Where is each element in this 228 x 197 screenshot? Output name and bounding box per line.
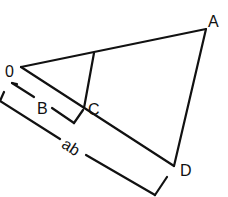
bracket-B-line-1 <box>12 83 34 97</box>
bracket-ab-line-2 <box>86 155 155 195</box>
line-OA <box>21 29 206 67</box>
bracket-ab-end-tick <box>155 177 167 195</box>
bracket-ab-start-tick <box>0 92 4 101</box>
bracket-B-line-2 <box>52 108 74 123</box>
label-D: D <box>180 162 192 179</box>
line-EC <box>84 53 94 108</box>
bracket-B-end-tick <box>74 110 83 123</box>
label-A: A <box>208 13 219 30</box>
diagram-canvas: 0 A C D B ab <box>0 0 228 197</box>
label-O: 0 <box>5 63 14 80</box>
label-C: C <box>88 101 100 118</box>
label-ab: ab <box>59 135 83 159</box>
bracket-ab-line-1 <box>0 101 60 139</box>
line-AD <box>174 29 206 166</box>
label-B: B <box>37 100 48 117</box>
